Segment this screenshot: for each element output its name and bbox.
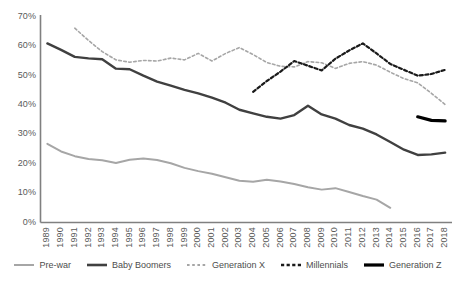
legend-item-label: Pre-war — [39, 260, 71, 270]
x-tick-label: 2000 — [193, 227, 202, 248]
x-tick-label: 2001 — [207, 227, 216, 248]
x-tick-label: 1992 — [84, 227, 93, 248]
x-tick-label: 1999 — [180, 227, 189, 248]
legend-item[interactable]: Generation Z — [364, 260, 442, 270]
chart-legend: Pre-warBaby BoomersGeneration XMillennia… — [0, 260, 456, 270]
x-tick-label: 2002 — [221, 227, 230, 248]
x-tick-label: 2003 — [234, 227, 243, 248]
legend-item[interactable]: Pre-war — [14, 260, 71, 270]
x-tick-label: 1998 — [166, 227, 175, 248]
x-tick-label: 1995 — [125, 227, 134, 248]
legend-swatch-icon — [14, 260, 34, 270]
x-tick-label: 1994 — [111, 227, 120, 248]
legend-item[interactable]: Baby Boomers — [87, 260, 171, 270]
x-tick-label: 2007 — [289, 227, 298, 248]
x-tick-label: 1989 — [42, 227, 51, 248]
legend-swatch-icon — [364, 260, 384, 270]
legend-swatch-icon — [87, 260, 107, 270]
x-tick-label: 1997 — [152, 227, 161, 248]
legend-item-label: Generation Z — [389, 260, 442, 270]
legend-swatch-icon — [281, 260, 301, 270]
x-tick-label: 1993 — [97, 227, 106, 248]
x-tick-label: 2014 — [385, 227, 394, 248]
x-tick-label: 1991 — [70, 227, 79, 248]
x-tick-label: 2012 — [358, 227, 367, 248]
legend-item-label: Baby Boomers — [112, 260, 171, 270]
x-axis-tick-labels: 1989199019911992199319941995199619971998… — [0, 0, 456, 283]
x-tick-label: 2017 — [426, 227, 435, 248]
x-tick-label: 2013 — [372, 227, 381, 248]
x-tick-label: 2018 — [440, 227, 449, 248]
legend-item[interactable]: Generation X — [187, 260, 265, 270]
legend-item[interactable]: Millennials — [281, 260, 348, 270]
x-tick-label: 1990 — [56, 227, 65, 248]
x-tick-label: 2009 — [317, 227, 326, 248]
x-tick-label: 2010 — [330, 227, 339, 248]
legend-swatch-icon — [187, 260, 207, 270]
x-tick-label: 2006 — [276, 227, 285, 248]
x-tick-label: 2011 — [344, 227, 353, 247]
x-tick-label: 2008 — [303, 227, 312, 248]
generational-turnout-line-chart: 0%10%20%30%40%50%60%70% 1989199019911992… — [0, 0, 456, 283]
x-tick-label: 2015 — [399, 227, 408, 248]
legend-item-label: Millennials — [306, 260, 348, 270]
x-tick-label: 2005 — [262, 227, 271, 248]
legend-item-label: Generation X — [212, 260, 265, 270]
x-tick-label: 2004 — [248, 227, 257, 248]
x-tick-label: 2016 — [413, 227, 422, 248]
x-tick-label: 1996 — [138, 227, 147, 248]
